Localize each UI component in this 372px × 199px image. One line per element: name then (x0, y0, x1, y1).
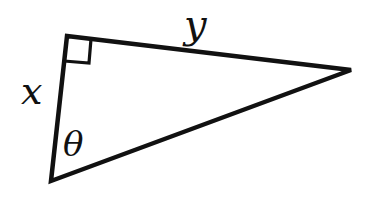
label-y: y (182, 1, 208, 47)
label-x: x (21, 69, 42, 113)
triangle (51, 36, 351, 181)
label-theta: θ (63, 124, 83, 164)
right-triangle-diagram: x y θ (0, 0, 372, 199)
